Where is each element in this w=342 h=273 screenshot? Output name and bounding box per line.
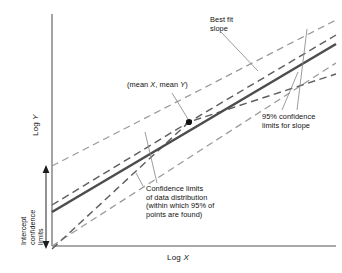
mean-point-marker (186, 119, 192, 125)
y-axis-variable: Y (31, 114, 40, 120)
plot-canvas (0, 0, 342, 273)
data-distribution-confidence-annotation: Confidence limitsof data distribution(wi… (146, 185, 214, 220)
slope-ci-lower-line (52, 74, 336, 249)
slope-confidence-annotation: 95% confidencelimits for slope (262, 113, 315, 130)
data-ci-leader-line-a (136, 173, 143, 186)
slope-ci-line1: 95% confidence (262, 112, 315, 121)
intercept-confidence-annotation: Interceptconfidencelimits (20, 210, 46, 245)
best-fit-slope-annotation: Best fitslope (210, 16, 233, 33)
y-axis-label: Log Y (31, 114, 40, 136)
data-ci-line2: of data distribution (146, 193, 207, 202)
slope-ci-leader-line-b (297, 29, 307, 110)
data-ci-line1: Confidence limits (146, 184, 203, 193)
slope-ci-line2: limits for slope (262, 121, 310, 130)
best-fit-leader-line (221, 32, 258, 71)
slope-ci-leader-line-a (282, 72, 298, 110)
intercept-line2: confidence (28, 210, 37, 245)
regression-confidence-limits-figure: Log Y Log X Best fitslope (mean X, mean … (0, 0, 342, 273)
x-axis-label: Log X (167, 253, 189, 262)
data-ci-leader-line-b (145, 132, 157, 183)
x-axis-variable: X (183, 253, 189, 262)
intercept-arrow-head-top (43, 165, 50, 173)
data-ci-upper-line (52, 20, 336, 166)
best-fit-line1: Best fit (210, 15, 233, 24)
mean-point-annotation: (mean X, mean Y) (127, 81, 188, 90)
intercept-line3: limits (36, 228, 45, 245)
leader-lines-group (136, 29, 307, 186)
best-fit-line2: slope (210, 24, 228, 33)
data-ci-line4: points are found) (146, 210, 202, 219)
data-ci-line3: (within which 95% of (146, 201, 214, 210)
intercept-line1: Intercept (19, 217, 28, 245)
